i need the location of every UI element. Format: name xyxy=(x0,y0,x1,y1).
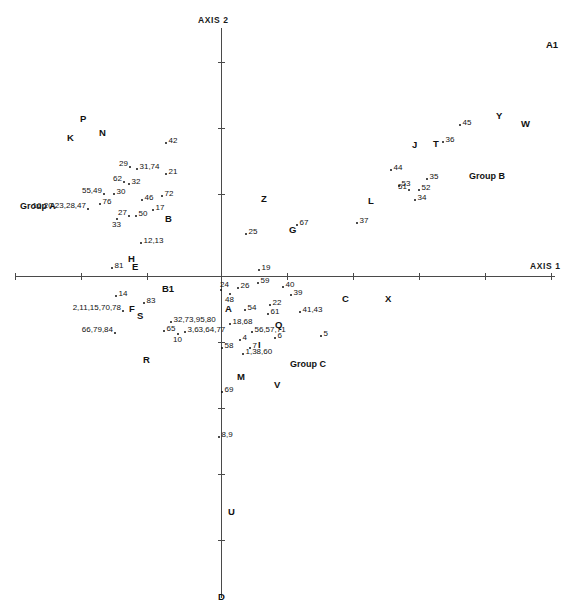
data-point-dot xyxy=(245,233,248,236)
group-letter-m: M xyxy=(237,372,245,382)
data-point-dot xyxy=(170,321,173,324)
data-point-label: 8,9 xyxy=(222,431,233,439)
group-letter-b1: B1 xyxy=(162,284,174,294)
data-point-dot xyxy=(221,391,224,394)
data-point-label: 27 xyxy=(118,209,127,217)
group-letter-d: D xyxy=(218,592,225,602)
data-point-label: 59 xyxy=(261,277,270,285)
data-point-dot xyxy=(136,168,139,171)
data-point-label: 61 xyxy=(271,308,280,316)
data-point-dot xyxy=(258,269,261,272)
data-point-label: 33 xyxy=(112,221,121,229)
x-axis-tick xyxy=(15,273,16,280)
group-letter-l: L xyxy=(368,196,374,206)
data-point-dot xyxy=(128,183,131,186)
data-point-dot xyxy=(244,309,247,312)
data-point-label: 55,49 xyxy=(82,187,102,195)
x-axis-tick xyxy=(147,273,148,280)
data-point-label: 51 xyxy=(398,183,407,191)
data-point-label: 19 xyxy=(262,264,271,272)
data-point-label: 30 xyxy=(117,188,126,196)
data-point-dot xyxy=(221,347,224,350)
x-axis-tick xyxy=(485,273,486,280)
group-name-label: Group A xyxy=(20,202,56,211)
data-point-dot xyxy=(390,169,393,172)
data-point-dot xyxy=(161,195,164,198)
data-point-label: 4 xyxy=(243,334,247,342)
data-point-label: 10 xyxy=(173,336,182,344)
group-letter-k: K xyxy=(67,133,74,143)
y-axis-tick xyxy=(218,474,225,475)
data-point-dot xyxy=(229,323,232,326)
group-letter-j: J xyxy=(412,140,417,150)
data-point-label: 42 xyxy=(169,137,178,145)
data-point-label: 66,79,84 xyxy=(82,326,113,334)
group-letter-q: Q xyxy=(275,320,282,330)
data-point-label: 69 xyxy=(225,386,234,394)
data-point-dot xyxy=(408,189,411,192)
data-point-dot xyxy=(165,142,168,145)
data-point-label: 62 xyxy=(113,175,122,183)
data-point-dot xyxy=(356,222,359,225)
data-point-label: 67 xyxy=(300,219,309,227)
x-axis-tick xyxy=(419,273,420,280)
data-point-label: 36 xyxy=(446,136,455,144)
data-point-label: 31,74 xyxy=(140,163,160,171)
data-point-dot xyxy=(163,330,166,333)
data-point-label: 37 xyxy=(360,217,369,225)
data-point-dot xyxy=(135,215,138,218)
data-point-dot xyxy=(122,310,125,313)
data-point-dot xyxy=(129,166,132,169)
group-name-label: Group B xyxy=(469,172,505,181)
data-point-dot xyxy=(152,209,155,212)
data-point-dot xyxy=(184,331,187,334)
data-point-label: 18,68 xyxy=(233,318,253,326)
data-point-dot xyxy=(242,353,245,356)
group-letter-p: P xyxy=(80,114,86,124)
data-point-dot xyxy=(113,193,116,196)
data-point-dot xyxy=(140,242,143,245)
data-point-label: 2,11,15,70,78 xyxy=(73,304,121,312)
data-point-dot xyxy=(282,286,285,289)
data-point-dot xyxy=(442,141,445,144)
data-point-dot xyxy=(143,302,146,305)
x-axis-tick xyxy=(353,273,354,280)
y-axis-tick xyxy=(218,540,225,541)
data-point-dot xyxy=(299,311,302,314)
data-point-label: 21 xyxy=(169,168,178,176)
data-point-dot xyxy=(459,124,462,127)
data-point-label: 25 xyxy=(249,228,258,236)
group-letter-f: F xyxy=(129,304,135,314)
group-letter-a1: A1 xyxy=(546,40,558,50)
group-letter-a: A xyxy=(225,304,232,314)
data-point-label: 3,63,64,77 xyxy=(188,326,226,334)
data-point-dot xyxy=(257,282,260,285)
data-point-label: 12,13 xyxy=(144,237,164,245)
x-axis-tick xyxy=(551,273,552,280)
data-point-label: 83 xyxy=(147,297,156,305)
data-point-label: 54 xyxy=(248,304,257,312)
x-axis-tick xyxy=(81,273,82,280)
data-point-dot xyxy=(426,178,429,181)
y-axis-line xyxy=(221,28,222,598)
data-point-label: 41,43 xyxy=(303,306,323,314)
data-point-dot xyxy=(218,436,221,439)
data-point-dot xyxy=(237,287,240,290)
data-point-dot xyxy=(165,173,168,176)
data-point-dot xyxy=(141,199,144,202)
data-point-dot xyxy=(239,339,242,342)
data-point-dot xyxy=(320,335,323,338)
data-point-dot xyxy=(418,189,421,192)
data-point-label: 26 xyxy=(241,282,250,290)
data-point-dot xyxy=(414,199,417,202)
data-point-label: 17 xyxy=(156,204,165,212)
data-point-dot xyxy=(128,215,131,218)
group-letter-z: Z xyxy=(261,194,267,204)
group-letter-r: R xyxy=(143,355,150,365)
data-point-dot xyxy=(87,208,90,211)
group-letter-u: U xyxy=(228,507,235,517)
data-point-label: 24 xyxy=(220,281,229,289)
group-letter-g: G xyxy=(289,225,296,235)
data-point-label: 34 xyxy=(418,194,427,202)
scatter-plot-canvas: AXIS 2 AXIS 1 422931,7421623255,49307276… xyxy=(0,0,575,614)
